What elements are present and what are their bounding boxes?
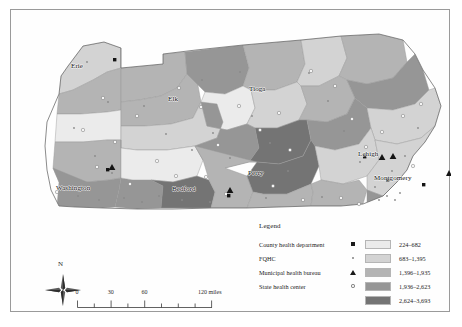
map-county-layer xyxy=(53,34,441,209)
scale-bar-ticks xyxy=(77,299,217,311)
legend-symbol-county-health-department xyxy=(345,237,361,251)
map-label-lehigh: Lehigh xyxy=(358,150,378,158)
scale-bar: 0 30 60 120 miles xyxy=(77,289,212,313)
map-label-perry: Perry xyxy=(248,169,264,177)
legend-label-municipal-health-bureau: Municipal health bureau xyxy=(259,269,341,276)
scale-number-0: 0 xyxy=(76,289,79,295)
open-circle-icon xyxy=(351,284,354,287)
legend-swatch-class-4 xyxy=(365,282,391,291)
legend-grid: County health department 224–682 FQHC 68… xyxy=(259,237,445,307)
legend-symbol-municipal-health-bureau xyxy=(345,265,361,279)
north-arrow-letter: N xyxy=(58,260,63,268)
legend-class-label-3: 1,396–1,935 xyxy=(395,269,445,276)
map-label-erie: Erie xyxy=(71,62,83,70)
legend-label-state-health-center: State health center xyxy=(259,283,341,290)
map-label-washington: Washington xyxy=(56,184,90,192)
legend-class-label-5: 2,624–3,693 xyxy=(395,297,445,304)
map-canvas[interactable]: Erie Elk Tioga Washington Bedford Perry … xyxy=(11,10,451,215)
legend-swatch-class-2 xyxy=(365,254,391,263)
legend-swatch-class-5 xyxy=(365,296,391,305)
map-label-montgomery: Montgomery xyxy=(374,174,412,182)
legend-class-label-2: 683–1,395 xyxy=(395,255,445,262)
figure-frame: Erie Elk Tioga Washington Bedford Perry … xyxy=(10,9,450,312)
county-york-lancaster xyxy=(311,180,367,206)
filled-square-icon xyxy=(351,242,355,246)
legend-class-label-4: 1,936–2,623 xyxy=(395,283,445,290)
county-mercer xyxy=(55,110,121,142)
small-dot-icon xyxy=(352,257,354,259)
legend-symbol-fqhc xyxy=(345,251,361,265)
filled-triangle-icon xyxy=(350,270,356,275)
legend-class-label-1: 224–682 xyxy=(395,241,445,248)
legend-symbol-state-health-center xyxy=(345,279,361,293)
legend-swatch-class-1 xyxy=(365,240,391,249)
map-label-tioga: Tioga xyxy=(249,85,266,93)
scale-number-30: 30 xyxy=(108,289,114,295)
scale-number-60: 60 xyxy=(142,289,148,295)
legend-label-fqhc: FQHC xyxy=(259,255,341,262)
scale-number-120-miles: 120 miles xyxy=(198,289,222,295)
legend: Legend County health department 224–682 … xyxy=(259,222,445,307)
legend-title: Legend xyxy=(259,222,445,230)
legend-swatch-class-3 xyxy=(365,268,391,277)
map-label-elk: Elk xyxy=(168,95,178,103)
legend-label-county-health-department: County health department xyxy=(259,241,341,248)
map-label-bedford: Bedford xyxy=(172,185,196,193)
